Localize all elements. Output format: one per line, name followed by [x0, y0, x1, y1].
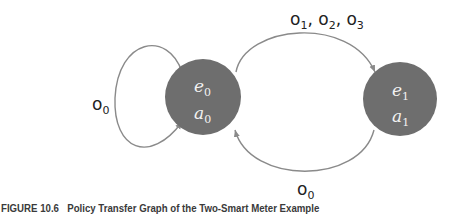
figure-number: FIGURE 10.6 [1, 202, 59, 214]
edge-state-1-to-state-0 [235, 130, 374, 171]
node-circle [165, 59, 241, 135]
edge-state-0-to-state-1 [236, 33, 375, 72]
edge-label-self-loop: o0 [92, 94, 109, 117]
node-state-0: e0 a0 [165, 59, 241, 135]
node-state-1: e1 a1 [363, 62, 437, 136]
edge-label-backward: o0 [297, 179, 314, 202]
figure-caption-text: Policy Transfer Graph of the Two-Smart M… [67, 202, 319, 214]
policy-transfer-graph: e0 a0 e1 a1 o0 o1, o2, o3 o0 [0, 0, 458, 215]
edge-label-forward: o1, o2, o3 [290, 9, 364, 32]
figure-caption: FIGURE 10.6 Policy Transfer Graph of the… [1, 202, 319, 214]
